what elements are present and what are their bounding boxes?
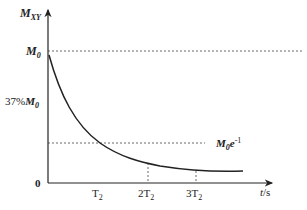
tick-label-3t2: 3T2 xyxy=(186,187,202,202)
m0-label: M0 xyxy=(25,44,41,60)
origin-label: 0 xyxy=(35,177,41,189)
m0e-label: M0e-1 xyxy=(215,136,241,152)
y-axis-label: MXY xyxy=(19,6,42,22)
pct37-label: 37%M0 xyxy=(5,95,39,110)
decay-curve xyxy=(49,55,243,171)
tick-label-2t2: 2T2 xyxy=(138,187,154,202)
x-axis-label: t/s xyxy=(260,186,270,198)
tick-label-t2: T2 xyxy=(92,187,103,202)
t2-decay-diagram: MXY M0 37%M0 M0e-1 0 T2 2T2 3T2 t/s xyxy=(0,0,307,210)
